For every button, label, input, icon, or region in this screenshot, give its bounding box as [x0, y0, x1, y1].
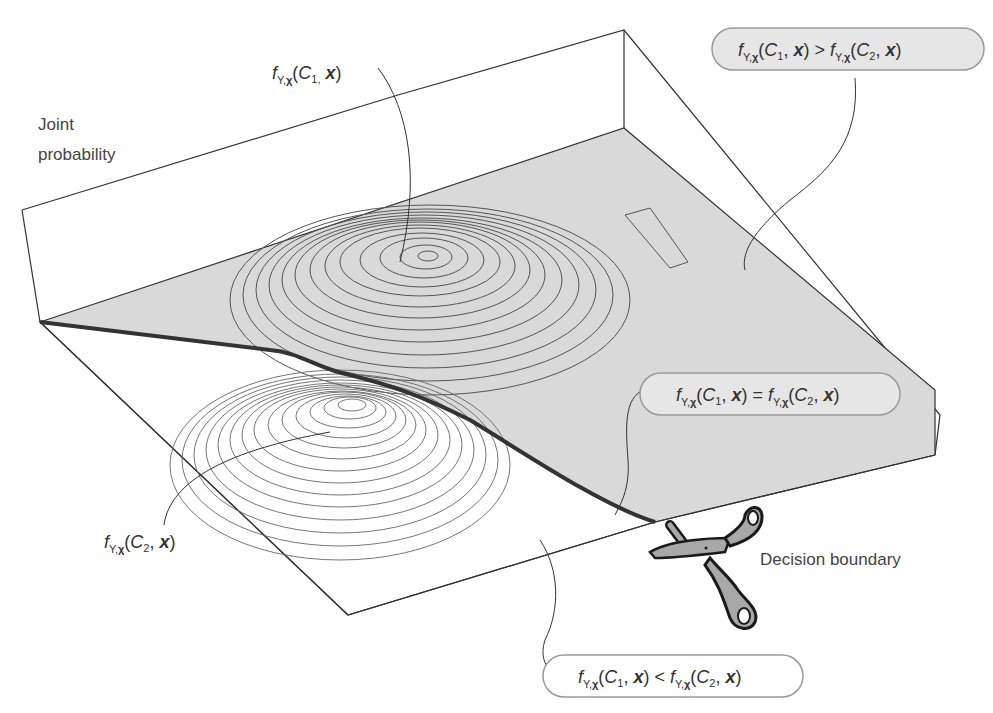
leader-less-callout — [540, 540, 556, 670]
relation-less: < — [655, 667, 666, 687]
axis-label-line2: probability — [38, 145, 116, 164]
callout-less: fY,χ(C1, x) < fY,χ(C2, x) — [543, 655, 803, 697]
relation-equal: = — [753, 385, 764, 405]
svg-text:fY,χ(C1, x) < fY,χ(C2, x): fY,χ(C1, x) < fY,χ(C2, x) — [578, 667, 742, 690]
svg-text:fY,χ(C1, x) > fY,χ(C2, x): fY,χ(C1, x) > fY,χ(C2, x) — [738, 40, 902, 63]
class2-density-label: fY,χ(C2, x) — [104, 532, 176, 555]
box-right-vertical — [935, 415, 940, 455]
diagram-canvas: Joint probability fY,χ(C1, x) fY,χ(C2, x… — [0, 0, 993, 713]
callout-greater: fY,χ(C1, x) > fY,χ(C2, x) — [712, 28, 984, 70]
scissors-icon — [650, 508, 762, 629]
decision-boundary-label: Decision boundary — [760, 550, 901, 569]
box-left-vertical — [22, 210, 40, 322]
svg-text:fY,χ(C1, x) = fY,χ(C2, x): fY,χ(C1, x) = fY,χ(C2, x) — [676, 385, 840, 408]
leader-greater-callout — [744, 78, 855, 270]
callout-equal: fY,χ(C1, x) = fY,χ(C2, x) — [640, 373, 900, 415]
class1-density-label: fY,χ(C1, x) — [272, 63, 342, 86]
relation-greater: > — [815, 40, 826, 60]
axis-label-line1: Joint — [38, 115, 74, 134]
